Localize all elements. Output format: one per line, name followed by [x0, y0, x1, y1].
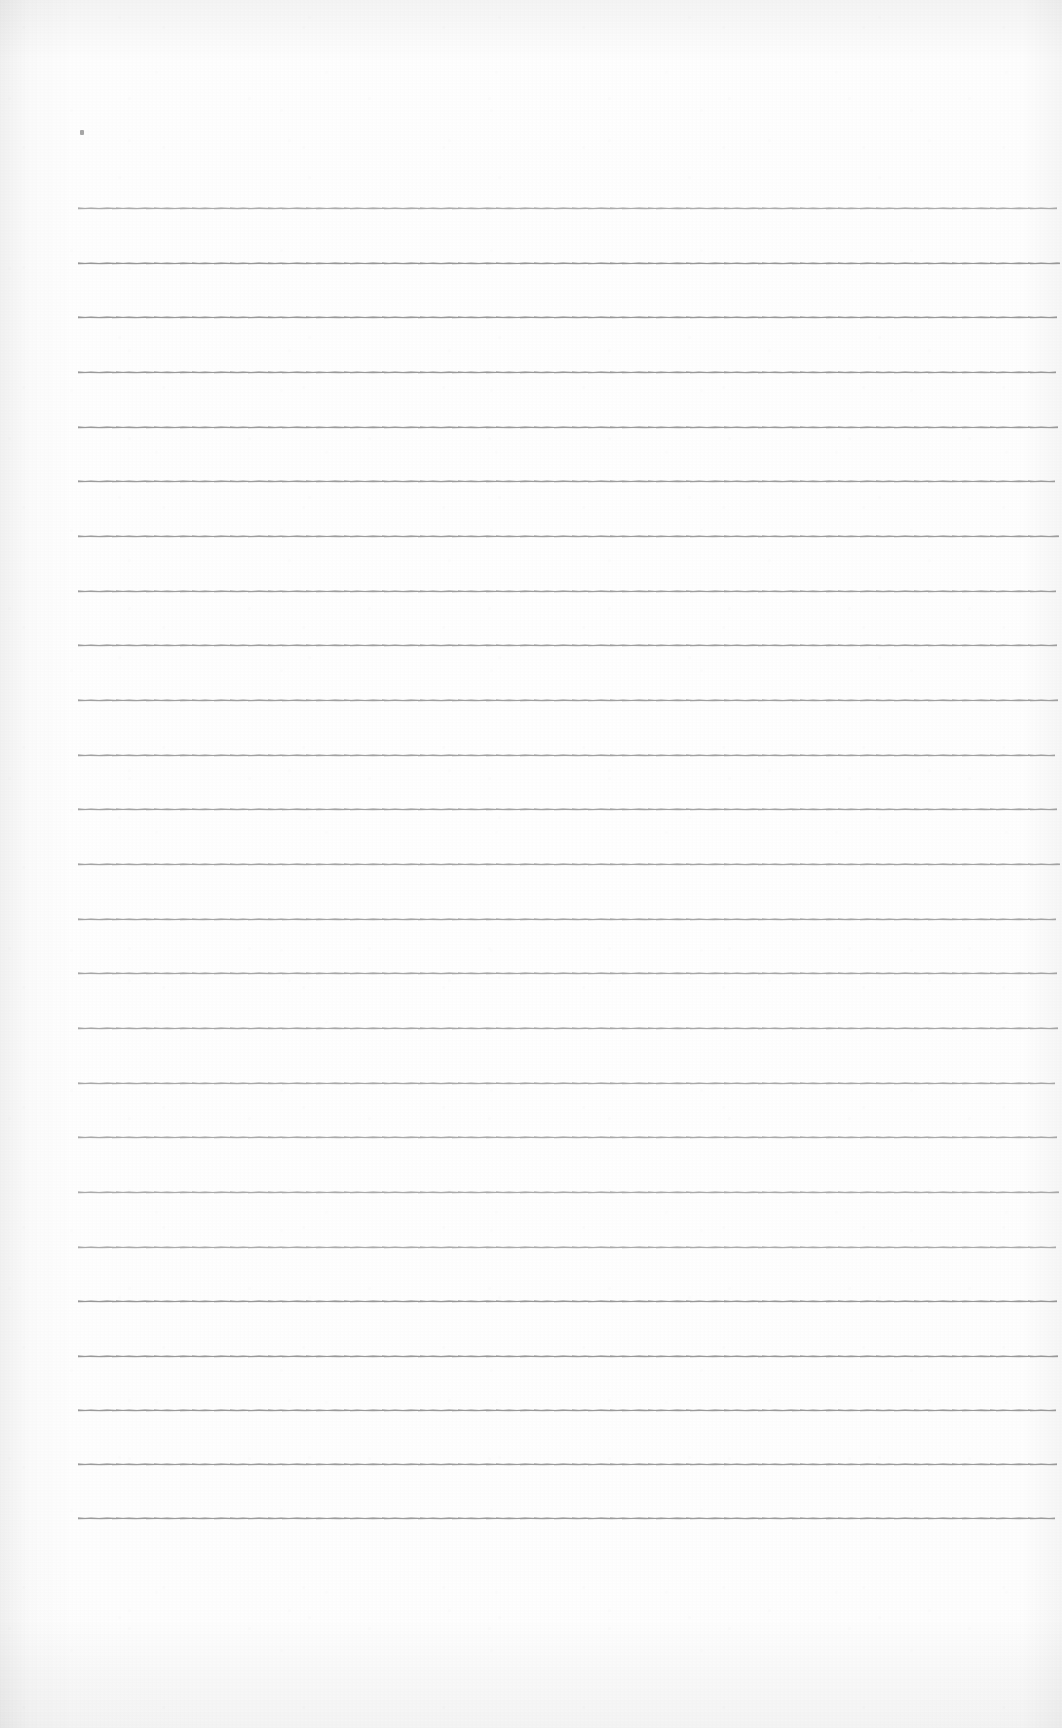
ruled-line: [78, 1083, 1055, 1084]
ruled-line: [78, 919, 1056, 920]
ruled-line: [78, 1464, 1057, 1465]
ruled-line: [78, 372, 1056, 373]
ruled-line: [78, 755, 1055, 756]
ruled-line: [78, 1247, 1056, 1248]
ruled-line: [78, 1301, 1057, 1302]
ruled-line: [78, 1356, 1058, 1357]
scanned-page: [0, 0, 1062, 1728]
ruled-line: [78, 1028, 1058, 1029]
ruled-line: [78, 1410, 1056, 1411]
ruled-line: [78, 591, 1056, 592]
ruled-line: [78, 973, 1057, 974]
ink-speck-mark: [80, 130, 84, 135]
ruled-line: [78, 645, 1057, 646]
ruled-line: [78, 536, 1059, 537]
ruled-line: [78, 1137, 1057, 1138]
ruled-line: [78, 427, 1058, 428]
ruled-line: [78, 263, 1060, 264]
ruled-line: [78, 700, 1058, 701]
ruled-line: [78, 809, 1057, 810]
ruled-line: [78, 864, 1060, 865]
ruled-line: [78, 208, 1057, 209]
ruled-line: [78, 317, 1057, 318]
ruled-line: [78, 1518, 1055, 1519]
ruled-line: [78, 481, 1055, 482]
ruled-lines-layer: [0, 0, 1062, 1728]
ruled-line: [78, 1192, 1059, 1193]
